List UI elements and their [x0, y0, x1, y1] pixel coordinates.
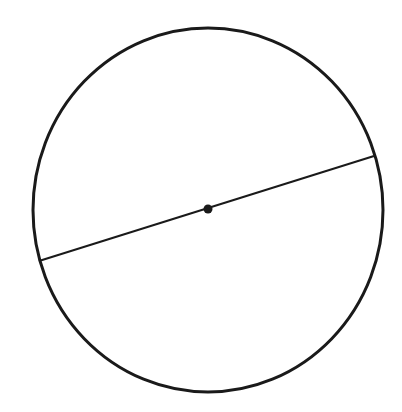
- diagram-canvas: [0, 0, 402, 412]
- center-point: [204, 205, 213, 214]
